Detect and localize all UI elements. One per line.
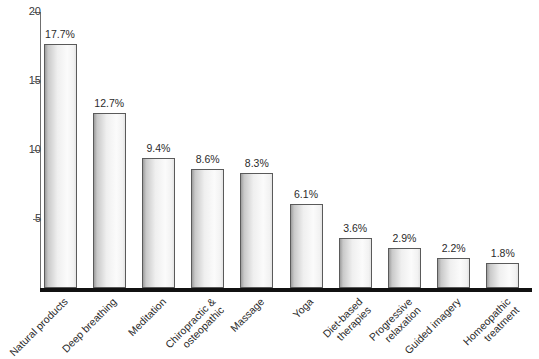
x-axis-category-label: Massage bbox=[229, 296, 267, 334]
plot-area: 17.7%12.7%9.4%8.6%8.3%6.1%3.6%2.9%2.2%1.… bbox=[40, 12, 532, 288]
bar bbox=[290, 204, 323, 288]
bar-value-label: 6.1% bbox=[278, 189, 334, 200]
bar bbox=[191, 169, 224, 288]
y-axis-tick-label: 15 bbox=[15, 75, 41, 86]
y-axis-tick-label-wrap: 10 bbox=[0, 144, 41, 155]
x-axis-category-label: Natural products bbox=[8, 296, 71, 359]
bar-value-label: 8.6% bbox=[180, 154, 236, 165]
x-axis-category-label-line: Natural products bbox=[8, 296, 71, 359]
bar bbox=[437, 258, 470, 288]
y-axis-tick-label-wrap: 5 bbox=[0, 213, 41, 224]
bar bbox=[93, 113, 126, 288]
bar-value-label: 9.4% bbox=[130, 143, 186, 154]
x-axis-category-label: Meditation bbox=[126, 296, 168, 338]
x-axis-baseline bbox=[40, 288, 532, 292]
y-axis-tick-label-wrap: 15 bbox=[0, 75, 41, 86]
y-axis-tick-label-wrap: 20 bbox=[0, 6, 41, 17]
bar-value-label: 17.7% bbox=[32, 29, 88, 40]
y-axis-tick-label: 5 bbox=[15, 213, 41, 224]
x-axis-category-label: Diet-basedtherapies bbox=[321, 296, 373, 348]
bar-value-label: 1.8% bbox=[475, 248, 531, 259]
bar-value-label: 2.9% bbox=[376, 233, 432, 244]
bar bbox=[388, 248, 421, 288]
x-axis-category-label-line: Massage bbox=[229, 296, 267, 334]
bar bbox=[339, 238, 372, 288]
bar bbox=[142, 158, 175, 288]
x-axis-category-label: Chiropractic &osteopathic bbox=[163, 296, 226, 359]
bar-value-label: 3.6% bbox=[327, 223, 383, 234]
x-axis-category-label: Yoga bbox=[291, 296, 316, 321]
y-axis-tick-label: 10 bbox=[15, 144, 41, 155]
bar bbox=[44, 44, 77, 288]
bar bbox=[240, 173, 273, 288]
y-axis-tick-label: 20 bbox=[15, 6, 41, 17]
bar-value-label: 2.2% bbox=[426, 243, 482, 254]
bar-value-label: 8.3% bbox=[229, 158, 285, 169]
x-axis-category-label-line: Meditation bbox=[126, 296, 168, 338]
bar bbox=[486, 263, 519, 288]
bar-value-label: 12.7% bbox=[81, 98, 137, 109]
x-axis-category-label: Homeopathictreatment bbox=[461, 296, 521, 356]
x-axis-category-label-line: Yoga bbox=[291, 296, 316, 321]
